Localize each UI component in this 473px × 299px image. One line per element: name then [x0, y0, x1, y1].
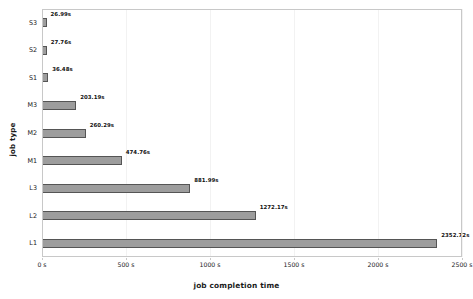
gridline	[462, 9, 463, 257]
x-tick-label: 0 s	[37, 261, 46, 268]
bar	[42, 101, 76, 110]
bar-value-label: 260.29s	[90, 122, 114, 128]
gridline	[378, 9, 379, 257]
y-tick-label: M3	[3, 101, 37, 109]
x-tick-mark	[126, 258, 127, 260]
bar-value-label: 2352.72s	[441, 232, 469, 238]
bar	[42, 46, 47, 55]
plot-area: 26.99s27.76s36.48s203.19s260.29s474.76s8…	[42, 9, 462, 257]
y-tick-label: L3	[3, 184, 37, 192]
y-tick-label: L1	[3, 239, 37, 247]
y-tick-label: M2	[3, 129, 37, 137]
bar	[42, 73, 48, 82]
y-axis-tick-labels: S3S2S1M3M2M1L3L2L1	[0, 9, 37, 257]
bar-value-label: 881.99s	[194, 177, 218, 183]
x-tick-label: 500 s	[117, 261, 134, 268]
y-tick-label: M1	[3, 157, 37, 165]
bar	[42, 156, 122, 165]
bar	[42, 129, 86, 138]
bar-value-label: 36.48s	[52, 66, 73, 72]
y-tick-label: S2	[3, 46, 37, 54]
bar-chart: job type S3S2S1M3M2M1L3L2L1 26.99s27.76s…	[0, 0, 473, 299]
x-tick-mark	[462, 258, 463, 260]
bar-value-label: 1272.17s	[260, 204, 288, 210]
x-tick-mark	[294, 258, 295, 260]
x-axis-tick-labels: 0 s500 s1000 s1500 s2000 s2500 s	[42, 258, 462, 274]
x-tick-label: 1000 s	[200, 261, 221, 268]
x-tick-mark	[42, 258, 43, 260]
bar-value-label: 27.76s	[51, 39, 72, 45]
bar-value-label: 26.99s	[51, 11, 72, 17]
x-tick-label: 2000 s	[368, 261, 389, 268]
gridline	[294, 9, 295, 257]
x-tick-mark	[378, 258, 379, 260]
bar-value-label: 474.76s	[126, 149, 150, 155]
x-axis-title: job completion time	[0, 281, 473, 290]
bar	[42, 211, 256, 220]
bar-value-label: 203.19s	[80, 94, 104, 100]
bar	[42, 239, 437, 248]
bar	[42, 18, 47, 27]
bar	[42, 184, 190, 193]
x-tick-mark	[210, 258, 211, 260]
y-tick-label: L2	[3, 212, 37, 220]
y-tick-label: S3	[3, 19, 37, 27]
x-tick-label: 1500 s	[284, 261, 305, 268]
y-tick-label: S1	[3, 74, 37, 82]
x-tick-label: 2500 s	[452, 261, 473, 268]
